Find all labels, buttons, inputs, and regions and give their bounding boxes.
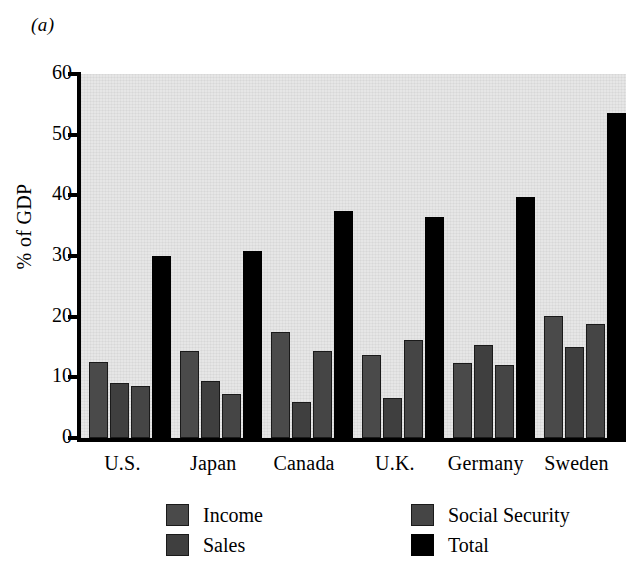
bar [453,363,472,438]
x-axis-label: U.K. [350,452,441,475]
bar [516,197,535,438]
bar [243,251,262,438]
x-axis-label: Canada [259,452,350,475]
legend-swatch-icon [411,534,434,556]
plot-area: 0102030405060 [77,74,626,442]
bar-group [354,74,445,438]
bar-group [81,74,172,438]
bar-group [263,74,354,438]
legend-row: SalesTotal [166,530,586,560]
bar [474,345,493,438]
bar [404,340,423,438]
y-tick-label: 50 [52,123,72,143]
bar-group [444,74,535,438]
bar [425,217,444,438]
y-axis-title: % of GDP [13,167,36,287]
y-tick-label: 60 [52,62,72,82]
bar [152,256,171,438]
x-axis-label: Japan [168,452,259,475]
legend-label: Total [448,535,489,555]
x-axis-label: Sweden [531,452,622,475]
bar [313,351,332,438]
bar [292,402,311,438]
bar [544,316,563,438]
bar [271,332,290,438]
panel-label: (a) [31,14,55,36]
legend-label: Social Security [448,505,570,525]
x-axis-label: Germany [440,452,531,475]
bar-group [535,74,626,438]
bar [180,351,199,438]
y-tick-label: 0 [62,426,72,446]
y-tick-label: 20 [52,305,72,325]
legend-item: Total [411,534,489,556]
legend-label: Sales [203,535,245,555]
legend-swatch-icon [411,504,434,526]
legend-swatch-icon [166,504,189,526]
legend-label: Income [203,505,263,525]
bar [110,383,129,438]
bar [201,381,220,438]
bar [362,355,381,438]
figure-panel-a: (a) % of GDP 0102030405060 U.S.JapanCana… [0,0,643,586]
legend-row: IncomeSocial Security [166,500,586,530]
x-axis-label: U.S. [77,452,168,475]
bar [334,211,353,438]
y-tick-label: 30 [52,244,72,264]
bar [607,113,626,438]
y-tick-label: 40 [52,183,72,203]
bar [89,362,108,438]
chart-legend: IncomeSocial SecuritySalesTotal [166,500,586,560]
legend-swatch-icon [166,534,189,556]
legend-item: Sales [166,534,411,556]
bar [222,394,241,438]
bar [131,386,150,438]
y-tick-label: 10 [52,365,72,385]
bar-group [172,74,263,438]
bar [586,324,605,438]
bar [383,398,402,438]
bar [495,365,514,438]
legend-item: Social Security [411,504,570,526]
bar [565,347,584,438]
legend-item: Income [166,504,411,526]
